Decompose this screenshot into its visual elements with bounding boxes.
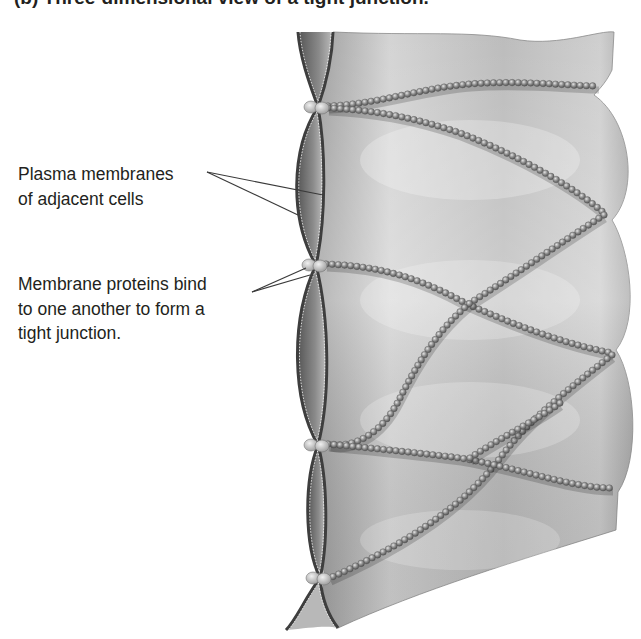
protein-bead	[453, 82, 460, 89]
protein-bead	[374, 97, 381, 104]
protein-bead	[441, 84, 448, 91]
protein-bead	[410, 90, 417, 97]
protein-bead	[337, 105, 344, 112]
protein-bead	[380, 110, 387, 117]
protein-bead	[509, 466, 516, 473]
protein-bead	[417, 118, 424, 125]
protein-bead	[436, 452, 443, 459]
protein-bead	[600, 484, 607, 491]
protein-bead	[356, 100, 363, 107]
protein-bead	[497, 463, 504, 470]
protein-bead	[349, 443, 356, 450]
protein-bead	[466, 81, 473, 88]
protein-bead	[533, 472, 540, 479]
protein-bead	[402, 274, 409, 281]
protein-bead	[356, 107, 363, 114]
protein-bead	[551, 476, 558, 483]
protein-bead	[399, 448, 406, 455]
protein-bead	[491, 462, 498, 469]
protein-bead	[423, 451, 430, 458]
protein-bead	[360, 264, 367, 271]
protein-bead	[587, 483, 594, 490]
protein-bead	[563, 479, 570, 486]
protein-bead	[534, 80, 541, 87]
protein-bead	[392, 93, 399, 100]
tight-junction-illustration	[0, 0, 641, 639]
protein-bead	[386, 95, 393, 102]
protein-bead	[417, 88, 424, 95]
protein-bead	[545, 475, 552, 482]
protein-bead	[354, 263, 361, 270]
protein-bead	[384, 269, 391, 276]
protein-bead	[452, 128, 459, 135]
protein-bead	[331, 441, 338, 448]
protein-bead	[569, 480, 576, 487]
protein-bead	[435, 123, 442, 130]
protein-bead	[331, 105, 338, 112]
leader-line-protein-upper	[252, 268, 306, 292]
protein-bead	[362, 99, 369, 106]
protein-bead	[460, 455, 467, 462]
protein-bead	[557, 337, 564, 344]
protein-bead	[337, 442, 344, 449]
protein-bead	[430, 452, 437, 459]
protein-bead	[515, 467, 522, 474]
protein-bead	[441, 125, 448, 132]
protein-bead	[569, 340, 576, 347]
protein-bead	[408, 275, 415, 282]
protein-bead	[472, 80, 479, 87]
leader-line-membrane-outer	[207, 172, 298, 215]
protein-bead	[557, 400, 564, 407]
protein-bead	[521, 469, 528, 476]
protein-bead	[533, 329, 540, 336]
leader-line-protein-lower	[252, 275, 310, 292]
protein-bead	[485, 460, 492, 467]
protein-bead	[545, 333, 552, 340]
protein-bead	[558, 81, 565, 88]
protein-bead	[447, 83, 454, 90]
protein-bead	[390, 270, 397, 277]
protein-bead	[503, 79, 510, 86]
protein-bead	[374, 446, 381, 453]
protein-bead	[435, 85, 442, 92]
protein-bead	[380, 446, 387, 453]
protein-bead	[349, 106, 356, 113]
protein-bead	[404, 91, 411, 98]
protein-bead	[329, 261, 336, 268]
protein-bead	[496, 79, 503, 86]
protein-bead	[571, 82, 578, 89]
protein-bead	[335, 261, 342, 268]
protein-bead	[515, 79, 522, 86]
protein-bead	[583, 82, 590, 89]
protein-bead	[423, 87, 430, 94]
protein-bead	[575, 342, 582, 349]
protein-bead	[557, 478, 564, 485]
protein-bead	[356, 444, 363, 451]
protein-bead	[509, 79, 516, 86]
protein-bead	[343, 106, 350, 113]
protein-bead	[347, 262, 354, 269]
protein-bead	[343, 443, 350, 450]
protein-bead	[396, 272, 403, 279]
protein-bead	[446, 126, 453, 133]
protein-bead	[378, 267, 385, 274]
protein-bead	[552, 81, 559, 88]
protein-bead	[581, 482, 588, 489]
protein-bead	[459, 81, 466, 88]
protein-bead	[429, 86, 436, 93]
protein-bead	[372, 266, 379, 273]
protein-bead	[429, 121, 436, 128]
protein-bead	[386, 447, 393, 454]
protein-bead	[563, 338, 570, 345]
protein-bead	[423, 119, 430, 126]
protein-bead	[587, 345, 594, 352]
protein-bead	[442, 453, 449, 460]
protein-bead	[593, 346, 600, 353]
protein-bead	[539, 331, 546, 338]
protein-bead	[594, 484, 601, 491]
protein-bead	[577, 82, 584, 89]
protein-bead	[484, 80, 491, 87]
protein-bead	[581, 343, 588, 350]
protein-bead	[521, 80, 528, 87]
protein-bead	[490, 80, 497, 87]
